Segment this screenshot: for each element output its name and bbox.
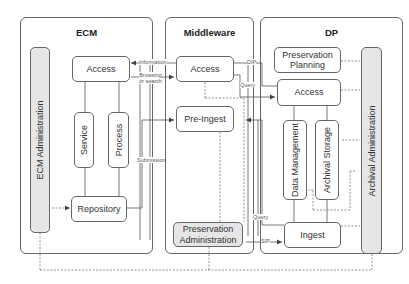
archival-administration-box[interactable]: Archival Administration <box>361 47 382 254</box>
ecm-access-box[interactable]: Access <box>72 56 130 82</box>
preservation-planning-box[interactable]: Preservation Planning <box>274 47 341 73</box>
dp-access-box[interactable]: Access <box>277 79 341 106</box>
preservation-administration-label-1: Preservation <box>183 224 234 234</box>
query-top-label: Query <box>240 82 255 88</box>
browsing-label: Browsing or search <box>139 72 162 84</box>
archival-storage-box[interactable]: Archival Storage <box>315 120 339 200</box>
submission-label: Submission <box>137 157 165 163</box>
ecm-repository-label: Repository <box>77 204 120 214</box>
ingest-box[interactable]: Ingest <box>284 222 341 248</box>
ecm-repository-box[interactable]: Repository <box>71 196 127 222</box>
ingest-label: Ingest <box>300 230 325 240</box>
preservation-planning-label-2: Planning <box>290 60 325 70</box>
dp-access-label: Access <box>294 87 323 97</box>
pre-ingest-box[interactable]: Pre-Ingest <box>176 106 234 132</box>
sip-label: SIP <box>261 238 270 244</box>
middleware-access-label: Access <box>190 64 219 74</box>
ecm-access-label: Access <box>86 64 115 74</box>
data-management-box[interactable]: Data Management <box>283 120 307 200</box>
query-bottom-label: Query <box>253 214 268 220</box>
preservation-administration-label-2: Administration <box>179 235 236 245</box>
data-management-label: Data Management <box>290 123 300 197</box>
middleware-access-box[interactable]: Access <box>176 56 234 82</box>
information-label: Information <box>139 59 167 65</box>
ecm-service-label: Service <box>79 125 89 155</box>
preservation-planning-label-1: Preservation <box>282 50 333 60</box>
ecm-administration-label: ECM Administration <box>35 100 45 179</box>
archival-storage-label: Archival Storage <box>322 127 332 193</box>
ecm-process-label: Process <box>114 124 124 157</box>
pre-ingest-label: Pre-Ingest <box>184 114 226 124</box>
browsing-label-2: or search <box>139 78 162 84</box>
ecm-process-box[interactable]: Process <box>108 112 129 168</box>
archival-administration-label: Archival Administration <box>367 105 377 196</box>
ecm-service-box[interactable]: Service <box>74 112 94 168</box>
preservation-administration-box[interactable]: Preservation Administration <box>173 222 243 247</box>
ecm-administration-box[interactable]: ECM Administration <box>30 47 50 233</box>
dip-label: DIP <box>247 59 256 65</box>
